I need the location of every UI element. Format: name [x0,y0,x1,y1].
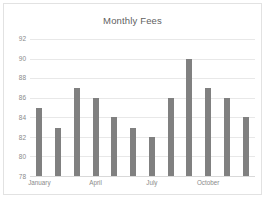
chart-container: Monthly Fees 7880828486889092 JanuaryApr… [3,3,262,195]
bar-slot [67,39,86,176]
bar-slot [105,39,124,176]
x-axis-tick-label: January [28,180,50,186]
bar[interactable] [149,137,155,176]
bar[interactable] [130,128,136,176]
bar[interactable] [93,98,99,176]
bar[interactable] [243,117,249,176]
plot-area: 7880828486889092 [30,39,255,176]
y-axis-tick-label: 82 [19,134,26,141]
y-axis-tick-label: 92 [19,36,26,43]
bar-slot [49,39,68,176]
y-axis-tick-label: 84 [19,115,26,122]
bar-slot [124,39,143,176]
x-axis-tick-label: October [197,180,219,186]
bar-slot [86,39,105,176]
y-axis-tick-label: 86 [19,95,26,102]
bar[interactable] [224,98,230,176]
y-axis-tick-label: 90 [19,55,26,62]
x-axis-labels: JanuaryAprilJulyOctober [30,180,255,194]
bar-slot [161,39,180,176]
bar-slot [199,39,218,176]
bar[interactable] [36,108,42,176]
x-axis-tick-label: April [89,180,102,186]
y-axis-tick-label: 78 [19,174,26,181]
bar-slot [143,39,162,176]
bar[interactable] [205,88,211,176]
bar[interactable] [111,117,117,176]
bar[interactable] [168,98,174,176]
chart-title: Monthly Fees [4,15,261,26]
bar-slot [236,39,255,176]
bar-slot [180,39,199,176]
y-axis-tick-label: 88 [19,75,26,82]
x-axis-line [30,176,255,177]
bar[interactable] [186,59,192,176]
bar[interactable] [74,88,80,176]
bar[interactable] [55,128,61,176]
bar-slot [218,39,237,176]
bar-series [30,39,255,176]
y-axis-tick-label: 80 [19,154,26,161]
bar-slot [30,39,49,176]
x-axis-tick-label: July [146,180,157,186]
